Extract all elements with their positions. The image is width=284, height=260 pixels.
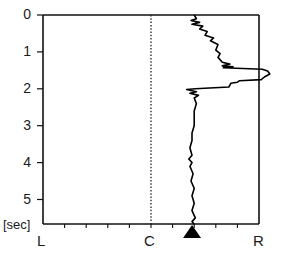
x-label-right: R [253,233,264,248]
position-trace-line [187,15,270,224]
y-tick-label: 2 [11,82,31,95]
y-axis-unit-label: [sec] [3,218,30,231]
y-tick-label: 4 [11,156,31,169]
y-tick-label: 1 [11,45,31,58]
chart-canvas [0,0,284,260]
y-axis-ticks [37,15,43,200]
x-label-center: C [144,233,155,248]
y-tick-label: 3 [11,119,31,132]
y-tick-label: 0 [11,8,31,21]
y-tick-label: 5 [11,193,31,206]
plot-frame [43,15,259,224]
triangle-marker-icon [183,225,201,238]
x-label-left: L [37,233,45,248]
